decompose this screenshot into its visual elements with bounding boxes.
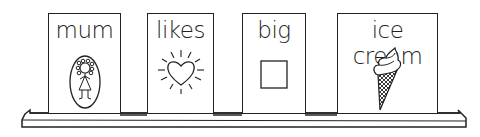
word-card-shelf-illustration: mum likes: [0, 0, 480, 137]
word-card-ice-cream: ice cream: [337, 13, 438, 114]
heart-icon: [156, 47, 206, 95]
square-icon: [258, 58, 290, 90]
word-card-likes: likes: [147, 13, 214, 114]
card-word: likes: [148, 17, 213, 43]
ice-cream-cone-icon: [368, 44, 408, 112]
word-card-mum: mum: [48, 13, 121, 114]
word-card-big: big: [242, 13, 306, 114]
card-word: big: [243, 17, 305, 43]
card-word: mum: [49, 17, 120, 43]
mum-portrait-icon: [63, 54, 107, 110]
